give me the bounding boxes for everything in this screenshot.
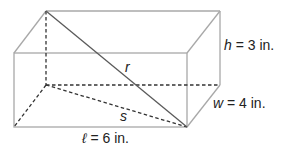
width-label: w = 4 in. bbox=[213, 95, 266, 111]
right-top-slant-edge bbox=[187, 11, 220, 53]
height-label: h = 3 in. bbox=[224, 37, 274, 53]
space-diagonal-r bbox=[46, 11, 187, 127]
base-diagonal-s bbox=[46, 85, 187, 127]
rectangular-prism-diagram: h = 3 in. r w = 4 in. s ℓ = 6 in. bbox=[0, 0, 290, 151]
left-top-slant-edge bbox=[14, 11, 46, 53]
front-face bbox=[14, 53, 187, 127]
length-label: ℓ = 6 in. bbox=[81, 130, 129, 146]
hidden-left-bottom-slant-edge bbox=[14, 85, 46, 127]
space-diagonal-label: r bbox=[125, 59, 131, 75]
base-diagonal-label: s bbox=[120, 108, 127, 124]
